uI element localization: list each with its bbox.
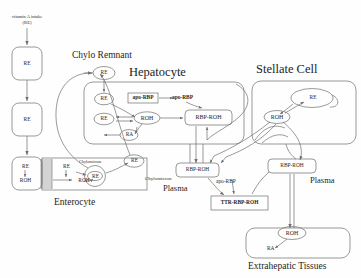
hep-apo-rbp-box-label: apo-RBP bbox=[129, 95, 157, 100]
arrow-hep-right-curve bbox=[207, 84, 248, 140]
hep-ra-label: RA bbox=[122, 132, 137, 137]
extrahepatic-roh-label: ROH bbox=[281, 230, 303, 236]
arrow-chylo-out bbox=[106, 163, 128, 173]
arrow-into-apo-rbp-2 bbox=[210, 156, 214, 163]
arrow-stellate-roh-down-left bbox=[214, 122, 270, 156]
hep-apo-rbp-out-label: apo-RBP bbox=[172, 95, 193, 100]
chylomicron-plasma-re-label: RE bbox=[127, 158, 142, 163]
plasma-rbp-roh-left-label: RBP-ROH bbox=[177, 167, 218, 172]
stellate-inner-arc-1 bbox=[255, 126, 285, 140]
enterocyte-title: Enterocyte bbox=[54, 198, 95, 208]
chylomicron-inner-re-label: RE bbox=[88, 174, 103, 179]
chylomicron-outer-label: Chylomicron bbox=[145, 176, 171, 181]
plasma-label-right: Plasma bbox=[310, 176, 335, 185]
intake-label-line2: (RE) bbox=[23, 20, 32, 25]
plasma-label-left: Plasma bbox=[163, 184, 188, 193]
chylo-remnant-title: Chylo Remnant bbox=[72, 51, 132, 61]
chylomicron-inner-label: Chylomicron bbox=[79, 160, 101, 164]
arrow-ttr-to-right-plasma bbox=[252, 172, 269, 194]
gut-box-2-label: RE bbox=[12, 117, 42, 122]
arrow-extrahepatic-roh-to-ra bbox=[275, 239, 287, 248]
stellate-re-label: RE bbox=[305, 95, 321, 100]
hepatocyte-title: Hepatocyte bbox=[129, 66, 186, 79]
arrow-into-apo-rbp bbox=[221, 157, 226, 163]
intake-label: vitamin A intake (RE) bbox=[4, 14, 50, 25]
plasma-apo-rbp-label: apo-RBP bbox=[216, 179, 236, 184]
vitamin-a-metabolism-diagram: vitamin A intake (RE) RE RE RE ROH RE RO… bbox=[0, 0, 361, 278]
lumen-re-label: RE bbox=[13, 164, 38, 169]
chylo-remnant-re-label: RE bbox=[96, 70, 112, 75]
hep-rbp-roh-label: RBP-ROH bbox=[186, 114, 231, 120]
hep-re-left-label: RE bbox=[96, 116, 112, 121]
plasma-rbp-roh-right-label: RBP-ROH bbox=[269, 163, 315, 168]
stellate-roh-label: ROH bbox=[266, 114, 288, 120]
hep-re-top-label: RE bbox=[96, 96, 112, 101]
gut-box-1-label: RE bbox=[12, 61, 42, 66]
gut-box-3 bbox=[12, 157, 42, 190]
arrow-stellate-curve-2 bbox=[226, 124, 276, 157]
extrahepatic-title: Extrahepatic Tissues bbox=[248, 262, 326, 272]
stellate-cell-title: Stellate Cell bbox=[256, 63, 317, 76]
arrow-hep-re-top-to-roh bbox=[111, 104, 135, 117]
lumen-roh-label: ROH bbox=[11, 178, 40, 183]
intake-label-line1: vitamin A intake bbox=[12, 14, 42, 19]
arrow-hepatocyte-to-enterocyte-curve bbox=[56, 73, 93, 168]
arrow-stellate-roh-down-right bbox=[283, 122, 301, 160]
arrow-apo-rbp-to-rbp-roh bbox=[186, 102, 202, 108]
plasma-ttr-rbp-roh-label: TTR-RBP-ROH bbox=[212, 200, 267, 205]
hep-roh-label: ROH bbox=[136, 115, 158, 121]
stellate-arc-down bbox=[286, 144, 296, 159]
enterocyte-re-label: RE bbox=[57, 164, 76, 169]
brush-border bbox=[41, 159, 52, 189]
extrahepatic-ra-label: RA bbox=[267, 246, 275, 251]
diagram-vector-layer bbox=[0, 0, 361, 278]
stellate-inner-arc-2 bbox=[262, 135, 288, 143]
stellate-re-loop bbox=[330, 95, 338, 107]
